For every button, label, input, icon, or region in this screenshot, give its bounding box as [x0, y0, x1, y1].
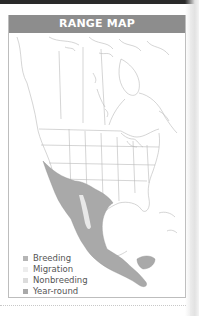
page-curl-shadow: [185, 0, 199, 316]
range-map-card: RANGE MAP Breeding: [8, 15, 186, 298]
legend-item-breeding: Breeding: [23, 253, 88, 264]
legend-item-migration: Migration: [23, 264, 88, 275]
legend: Breeding Migration Nonbreeding Year-roun…: [23, 253, 88, 297]
canada-us-border: [39, 129, 159, 137]
range-yucatan: [137, 256, 155, 269]
range-map-title: RANGE MAP: [9, 15, 185, 33]
dotted-divider: [0, 305, 186, 306]
nonbreeding-swatch-icon: [23, 278, 28, 283]
legend-item-year-round: Year-round: [23, 286, 88, 297]
year-round-swatch-icon: [23, 289, 28, 294]
legend-item-nonbreeding: Nonbreeding: [23, 275, 88, 286]
hudson-bay: [119, 59, 139, 95]
migration-swatch-icon: [23, 267, 28, 272]
breeding-swatch-icon: [23, 256, 28, 261]
coastline-east: [119, 133, 160, 211]
